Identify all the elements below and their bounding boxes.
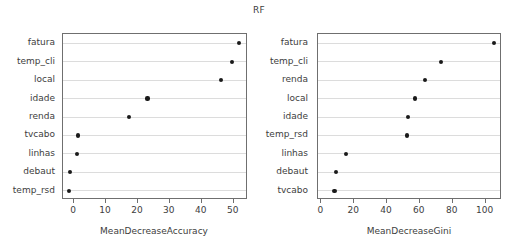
x-axis-tick [233, 199, 234, 203]
x-axis-tick-label: 80 [446, 205, 457, 215]
gridline [318, 190, 500, 191]
x-axis-title-left: MeanDecreaseAccuracy [100, 226, 208, 236]
y-axis-label-idade: idade [283, 111, 308, 121]
y-axis-label-local: local [34, 74, 55, 84]
data-point [75, 152, 79, 156]
panel-mean-decrease-gini: faturatemp_clirendalocalidadetemp_rsdlin… [259, 0, 518, 251]
gridline [63, 117, 246, 118]
y-axis-label-linhas: linhas [281, 148, 308, 158]
data-point [76, 133, 80, 137]
y-axis-category-labels-right: faturatemp_clirendalocalidadetemp_rsdlin… [259, 0, 312, 251]
x-axis-tick-label: 40 [380, 205, 391, 215]
gridline [318, 135, 500, 136]
x-axis-tick [320, 199, 321, 203]
gridline [318, 61, 500, 62]
data-point [439, 60, 443, 64]
gridline [63, 190, 246, 191]
x-axis-tick [353, 199, 354, 203]
data-point [237, 41, 241, 45]
x-axis-tick-label: 50 [227, 205, 238, 215]
x-axis-tick-label: 30 [163, 205, 174, 215]
x-axis-tick-label: 40 [195, 205, 206, 215]
y-axis-label-tvcabo: tvcabo [277, 185, 308, 195]
x-axis-tick [73, 199, 74, 203]
plot-area-right [317, 33, 501, 199]
y-axis-label-temp_cli: temp_cli [270, 56, 308, 66]
data-point [127, 115, 131, 119]
y-axis-category-labels-left: faturatemp_clilocalidaderendatvcabolinha… [0, 0, 57, 251]
gridline [318, 98, 500, 99]
y-axis-label-fatura: fatura [281, 37, 308, 47]
data-point [219, 78, 223, 82]
x-axis-tick [419, 199, 420, 203]
x-axis-tick [386, 199, 387, 203]
gridline [63, 153, 246, 154]
data-point [413, 96, 417, 100]
gridline [63, 98, 246, 99]
y-axis-label-debaut: debaut [276, 166, 308, 176]
data-point [492, 41, 496, 45]
y-axis-label-temp_cli: temp_cli [17, 56, 55, 66]
gridline [318, 43, 500, 44]
data-point [423, 78, 427, 82]
data-point [332, 189, 336, 193]
x-axis-tick-label: 20 [347, 205, 358, 215]
y-axis-label-temp_rsd: temp_rsd [266, 129, 308, 139]
gridline [318, 172, 500, 173]
x-axis-tick-label: 100 [476, 205, 493, 215]
gridline [63, 172, 246, 173]
data-point [344, 152, 348, 156]
x-axis-tick [137, 199, 138, 203]
y-axis-label-local: local [287, 93, 308, 103]
y-axis-label-idade: idade [30, 93, 55, 103]
y-axis-label-fatura: fatura [28, 37, 55, 47]
x-axis-tick-label: 20 [131, 205, 142, 215]
y-axis-label-debaut: debaut [23, 166, 55, 176]
x-axis-tick [105, 199, 106, 203]
data-point [68, 170, 72, 174]
data-point [405, 133, 409, 137]
data-point [67, 189, 71, 193]
y-axis-label-linhas: linhas [28, 148, 55, 158]
gridline [63, 135, 246, 136]
variable-importance-figure: RF faturatemp_clilocalidaderendatvcaboli… [0, 0, 518, 251]
x-axis-tick [452, 199, 453, 203]
gridline [63, 43, 246, 44]
plot-area-left [62, 33, 247, 199]
data-point [334, 170, 338, 174]
x-axis-tick [201, 199, 202, 203]
data-point [406, 115, 410, 119]
gridline [63, 61, 246, 62]
panel-mean-decrease-accuracy: faturatemp_clilocalidaderendatvcabolinha… [0, 0, 259, 251]
x-axis-tick-label: 0 [70, 205, 76, 215]
data-point [145, 96, 149, 100]
gridline [318, 80, 500, 81]
data-point [230, 60, 234, 64]
x-axis-tick [169, 199, 170, 203]
x-axis-tick [485, 199, 486, 203]
y-axis-label-renda: renda [29, 111, 55, 121]
x-axis-tick-label: 60 [413, 205, 424, 215]
x-axis-tick-label: 0 [317, 205, 323, 215]
y-axis-label-temp_rsd: temp_rsd [13, 185, 55, 195]
y-axis-label-renda: renda [282, 74, 308, 84]
x-axis-tick-label: 10 [99, 205, 110, 215]
y-axis-label-tvcabo: tvcabo [24, 129, 55, 139]
x-axis-title-right: MeanDecreaseGini [367, 226, 451, 236]
